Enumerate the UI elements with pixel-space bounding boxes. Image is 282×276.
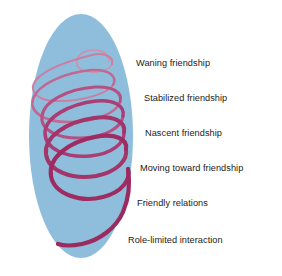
stage-label-friendly-relations: Friendly relations [137,198,208,209]
stage-label-waning-friendship: Waning friendship [136,58,210,69]
stage-label-nascent-friendship: Nascent friendship [145,128,222,139]
stage-label-role-limited-interaction: Role-limited interaction [128,235,223,246]
stage-label-stabilized-friendship: Stabilized friendship [144,93,227,104]
stage-label-moving-toward-friendship: Moving toward friendship [140,163,243,174]
